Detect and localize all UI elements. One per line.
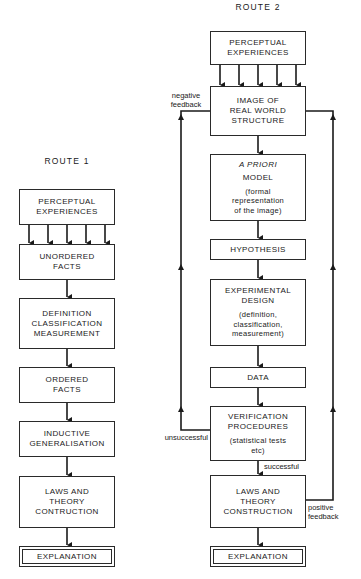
label-line: feedback bbox=[308, 512, 354, 521]
label-line: feedback bbox=[164, 100, 208, 109]
box-line: ORDERED bbox=[46, 375, 89, 385]
sub-line: (statistical tests bbox=[230, 436, 287, 446]
route2-experimental-design: EXPERIMENTAL DESIGN (definition, classif… bbox=[210, 279, 306, 346]
sub-line: representation bbox=[232, 196, 284, 206]
box-line: UNORDERED bbox=[39, 252, 94, 262]
sub-line: of the image) bbox=[232, 206, 284, 216]
box-line: EXPERIMENTAL bbox=[225, 286, 291, 296]
box-line: INDUCTIVE bbox=[44, 429, 91, 439]
sub-line: measurement) bbox=[232, 329, 284, 339]
route2-explanation: EXPLANATION bbox=[210, 546, 306, 567]
box-subtext: (statistical tests etc) bbox=[230, 436, 287, 455]
box-line: DATA bbox=[247, 373, 269, 383]
route-1-title: ROUTE 1 bbox=[19, 156, 115, 166]
box-line: VERIFICATION bbox=[228, 412, 288, 422]
box-line: PROCEDURES bbox=[228, 422, 288, 432]
box-subtext: (definition, classification, measurement… bbox=[232, 310, 284, 339]
box-line: LAWS AND bbox=[236, 487, 280, 497]
route1-definition-classification-measurement: DEFINITION CLASSIFICATION MEASUREMENT bbox=[19, 298, 115, 349]
box-subtext: (formal representation of the image) bbox=[232, 187, 284, 216]
box-line: MODEL bbox=[243, 173, 273, 183]
sub-line: classification, bbox=[232, 320, 284, 330]
successful-label: successful bbox=[264, 462, 314, 471]
sub-line: etc) bbox=[230, 446, 287, 456]
box-line: EXPERIENCES bbox=[36, 207, 97, 217]
route2-perceptual-experiences: PERCEPTUAL EXPERIENCES bbox=[210, 31, 306, 65]
route1-unordered-facts: UNORDERED FACTS bbox=[19, 244, 115, 280]
box-line: MEASUREMENT bbox=[34, 329, 101, 339]
box-line: STRUCTURE bbox=[232, 116, 285, 126]
route2-verification-procedures: VERIFICATION PROCEDURES (statistical tes… bbox=[210, 406, 306, 461]
route1-ordered-facts: ORDERED FACTS bbox=[19, 367, 115, 403]
label-line: positive bbox=[308, 503, 354, 512]
box-line: EXPLANATION bbox=[37, 552, 97, 562]
box-line: HYPOTHESIS bbox=[230, 245, 286, 255]
route1-inductive-generalisation: INDUCTIVE GENERALISATION bbox=[19, 421, 115, 457]
sub-line: (formal bbox=[232, 187, 284, 197]
box-line: CLASSIFICATION bbox=[32, 319, 103, 329]
box-line: GENERALISATION bbox=[29, 439, 104, 449]
box-line: LAWS AND bbox=[45, 487, 89, 497]
box-line: PERCEPTUAL bbox=[229, 38, 286, 48]
sub-line: (definition, bbox=[232, 310, 284, 320]
box-line: REAL WORLD bbox=[230, 106, 287, 116]
box-line: CONSTRUCTION bbox=[223, 507, 292, 517]
route2-hypothesis: HYPOTHESIS bbox=[210, 239, 306, 260]
route2-a-priori-model: A PRIORI MODEL (formal representation of… bbox=[210, 154, 306, 221]
box-line-italic: A PRIORI bbox=[239, 160, 277, 170]
route1-laws-theory: LAWS AND THEORY CONTRUCTION bbox=[19, 476, 115, 528]
box-line: IMAGE OF bbox=[237, 96, 279, 106]
route2-data: DATA bbox=[210, 367, 306, 388]
negative-feedback-label: negative feedback bbox=[164, 91, 208, 109]
box-line: EXPLANATION bbox=[228, 552, 288, 562]
route1-perceptual-experiences: PERCEPTUAL EXPERIENCES bbox=[19, 189, 115, 225]
box-line: FACTS bbox=[53, 385, 81, 395]
label-line: negative bbox=[164, 91, 208, 100]
box-line: PERCEPTUAL bbox=[38, 197, 95, 207]
box-line: THEORY bbox=[49, 497, 85, 507]
box-line: DEFINITION bbox=[42, 309, 91, 319]
box-line: THEORY bbox=[240, 497, 276, 507]
route2-image-of-real-world: IMAGE OF REAL WORLD STRUCTURE bbox=[210, 86, 306, 136]
route2-laws-theory-construction: LAWS AND THEORY CONSTRUCTION bbox=[210, 475, 306, 528]
box-line: EXPERIENCES bbox=[227, 48, 288, 58]
positive-feedback-label: positive feedback bbox=[308, 503, 354, 521]
box-line: CONTRUCTION bbox=[35, 507, 99, 517]
unsuccessful-label: unsuccessful bbox=[148, 433, 208, 442]
route-2-title: ROUTE 2 bbox=[210, 2, 306, 12]
box-line: FACTS bbox=[53, 262, 81, 272]
box-line: DESIGN bbox=[241, 296, 274, 306]
route1-explanation: EXPLANATION bbox=[19, 546, 115, 567]
